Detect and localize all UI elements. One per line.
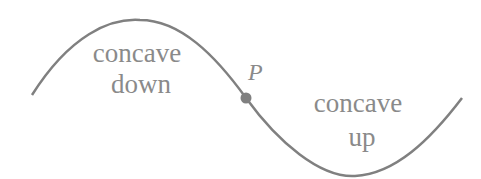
concave-down-label-line1: concave [93,38,181,68]
concave-up-label-line1: concave [314,88,402,118]
concave-up-label-line2: up [349,122,376,152]
inflection-point-p [241,93,252,104]
concavity-diagram: concave down concave up P [0,0,481,179]
point-p-label: P [247,59,263,85]
concave-down-label-line2: down [111,69,171,99]
